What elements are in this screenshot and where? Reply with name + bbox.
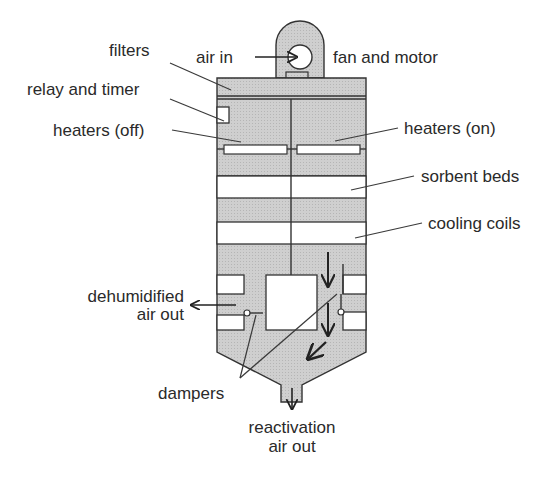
label-reactivation-line2: air out [268, 437, 316, 456]
heater-on [297, 145, 360, 154]
label-air-in: air in [196, 48, 233, 67]
left-outlet-upper [217, 275, 244, 294]
label-heaters-off: heaters (off) [53, 121, 144, 140]
damper-left [244, 310, 250, 316]
heater-off [224, 145, 287, 154]
fan-and-motor-housing [276, 21, 324, 78]
fan-mount [286, 72, 308, 78]
label-relay-and-timer: relay and timer [27, 80, 140, 99]
dehumidifier-diagram: air in fan and motor filters relay and t… [0, 0, 557, 477]
dehumidifier-body [217, 78, 366, 402]
label-dehumidified-line2: air out [137, 305, 185, 324]
right-outlet-upper [343, 275, 366, 294]
label-dampers: dampers [158, 384, 224, 403]
label-heaters-on: heaters (on) [404, 119, 496, 138]
damper-right [338, 309, 344, 315]
left-outlet-lower [217, 315, 244, 330]
right-outlet-lower [343, 312, 366, 330]
label-filters: filters [109, 41, 150, 60]
center-chamber [266, 275, 317, 330]
label-sorbent-beds: sorbent beds [421, 167, 519, 186]
label-reactivation-line1: reactivation [249, 418, 336, 437]
label-dehumidified-line1: dehumidified [88, 287, 184, 306]
label-fan-and-motor: fan and motor [333, 48, 438, 67]
label-cooling-coils: cooling coils [428, 214, 521, 233]
